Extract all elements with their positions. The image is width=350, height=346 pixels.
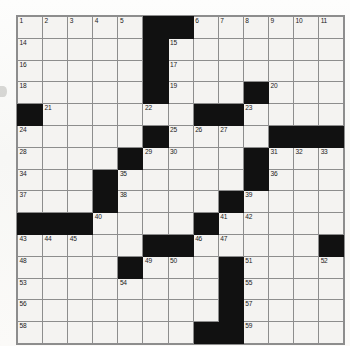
crossword-cell[interactable]: 6 [193, 17, 218, 39]
crossword-cell[interactable] [143, 322, 168, 344]
crossword-cell[interactable] [268, 234, 293, 256]
crossword-cell[interactable] [143, 213, 168, 235]
crossword-cell[interactable] [294, 191, 319, 213]
crossword-cell[interactable]: 43 [18, 234, 43, 256]
crossword-cell[interactable] [43, 147, 68, 169]
crossword-cell[interactable]: 42 [243, 213, 268, 235]
crossword-cell[interactable] [319, 169, 344, 191]
crossword-cell[interactable] [118, 234, 143, 256]
crossword-cell[interactable] [268, 256, 293, 278]
crossword-cell[interactable] [68, 38, 93, 60]
crossword-cell[interactable] [294, 60, 319, 82]
crossword-cell[interactable] [294, 38, 319, 60]
crossword-cell[interactable]: 31 [268, 147, 293, 169]
crossword-cell[interactable] [218, 169, 243, 191]
crossword-cell[interactable] [268, 38, 293, 60]
crossword-cell[interactable]: 26 [193, 125, 218, 147]
crossword-cell[interactable] [193, 278, 218, 300]
crossword-cell[interactable] [294, 104, 319, 126]
crossword-cell[interactable] [168, 300, 193, 322]
crossword-cell[interactable] [93, 82, 118, 104]
crossword-cell[interactable] [193, 147, 218, 169]
crossword-cell[interactable] [319, 104, 344, 126]
crossword-cell[interactable] [193, 82, 218, 104]
crossword-cell[interactable] [93, 38, 118, 60]
crossword-cell[interactable]: 45 [68, 234, 93, 256]
crossword-cell[interactable]: 9 [268, 17, 293, 39]
crossword-cell[interactable]: 36 [268, 169, 293, 191]
crossword-cell[interactable] [93, 278, 118, 300]
crossword-cell[interactable] [243, 38, 268, 60]
crossword-cell[interactable] [93, 147, 118, 169]
crossword-cell[interactable] [143, 191, 168, 213]
crossword-cell[interactable] [118, 82, 143, 104]
crossword-cell[interactable] [268, 104, 293, 126]
crossword-cell[interactable] [268, 213, 293, 235]
crossword-cell[interactable] [43, 191, 68, 213]
crossword-cell[interactable] [294, 82, 319, 104]
crossword-cell[interactable] [193, 256, 218, 278]
crossword-cell[interactable]: 20 [268, 82, 293, 104]
crossword-cell[interactable]: 37 [18, 191, 43, 213]
crossword-cell[interactable] [143, 300, 168, 322]
crossword-cell[interactable] [68, 278, 93, 300]
crossword-cell[interactable] [93, 104, 118, 126]
crossword-cell[interactable]: 56 [18, 300, 43, 322]
crossword-cell[interactable] [268, 322, 293, 344]
crossword-cell[interactable]: 7 [218, 17, 243, 39]
crossword-cell[interactable] [68, 60, 93, 82]
crossword-cell[interactable] [268, 191, 293, 213]
crossword-cell[interactable]: 32 [294, 147, 319, 169]
crossword-cell[interactable]: 54 [118, 278, 143, 300]
crossword-cell[interactable]: 17 [168, 60, 193, 82]
crossword-cell[interactable]: 4 [93, 17, 118, 39]
crossword-cell[interactable] [319, 300, 344, 322]
crossword-cell[interactable] [168, 191, 193, 213]
crossword-cell[interactable] [319, 213, 344, 235]
crossword-cell[interactable]: 8 [243, 17, 268, 39]
crossword-cell[interactable] [93, 125, 118, 147]
crossword-cell[interactable] [319, 191, 344, 213]
crossword-cell[interactable] [168, 104, 193, 126]
crossword-cell[interactable] [218, 60, 243, 82]
crossword-cell[interactable]: 15 [168, 38, 193, 60]
crossword-cell[interactable] [193, 38, 218, 60]
crossword-cell[interactable] [68, 169, 93, 191]
crossword-cell[interactable]: 22 [143, 104, 168, 126]
crossword-cell[interactable]: 48 [18, 256, 43, 278]
crossword-cell[interactable] [93, 300, 118, 322]
crossword-cell[interactable] [68, 322, 93, 344]
crossword-cell[interactable] [68, 125, 93, 147]
crossword-cell[interactable] [118, 300, 143, 322]
crossword-cell[interactable]: 58 [18, 322, 43, 344]
crossword-cell[interactable]: 25 [168, 125, 193, 147]
crossword-cell[interactable]: 40 [93, 213, 118, 235]
crossword-cell[interactable]: 14 [18, 38, 43, 60]
crossword-cell[interactable]: 38 [118, 191, 143, 213]
crossword-cell[interactable] [268, 278, 293, 300]
crossword-cell[interactable] [294, 322, 319, 344]
crossword-cell[interactable] [68, 82, 93, 104]
crossword-cell[interactable] [243, 60, 268, 82]
crossword-grid[interactable]: 1234567891011141516171819202122232425262… [17, 16, 344, 344]
crossword-cell[interactable]: 23 [243, 104, 268, 126]
crossword-cell[interactable]: 11 [319, 17, 344, 39]
crossword-cell[interactable] [294, 169, 319, 191]
crossword-cell[interactable]: 2 [43, 17, 68, 39]
crossword-cell[interactable] [118, 125, 143, 147]
crossword-cell[interactable] [218, 82, 243, 104]
crossword-cell[interactable]: 19 [168, 82, 193, 104]
crossword-cell[interactable]: 3 [68, 17, 93, 39]
crossword-cell[interactable]: 55 [243, 278, 268, 300]
crossword-cell[interactable] [118, 213, 143, 235]
crossword-cell[interactable]: 28 [18, 147, 43, 169]
crossword-cell[interactable]: 46 [193, 234, 218, 256]
crossword-cell[interactable] [319, 82, 344, 104]
crossword-cell[interactable] [193, 300, 218, 322]
crossword-cell[interactable] [93, 60, 118, 82]
crossword-cell[interactable]: 47 [218, 234, 243, 256]
crossword-cell[interactable] [43, 125, 68, 147]
crossword-cell[interactable] [118, 104, 143, 126]
crossword-cell[interactable] [118, 38, 143, 60]
crossword-cell[interactable]: 51 [243, 256, 268, 278]
